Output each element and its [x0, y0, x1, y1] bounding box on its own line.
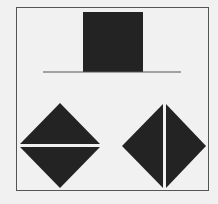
diamond-right-vertical-split — [122, 104, 206, 188]
diamond-left-horizontal-split — [20, 103, 100, 188]
square-shape — [83, 12, 143, 72]
diamond-left-bottom-half — [20, 147, 100, 188]
figure-canvas — [0, 0, 218, 204]
diamond-right-right-half — [166, 104, 206, 188]
diamond-left-top-half — [20, 103, 100, 144]
diamond-right-left-half — [122, 104, 163, 188]
